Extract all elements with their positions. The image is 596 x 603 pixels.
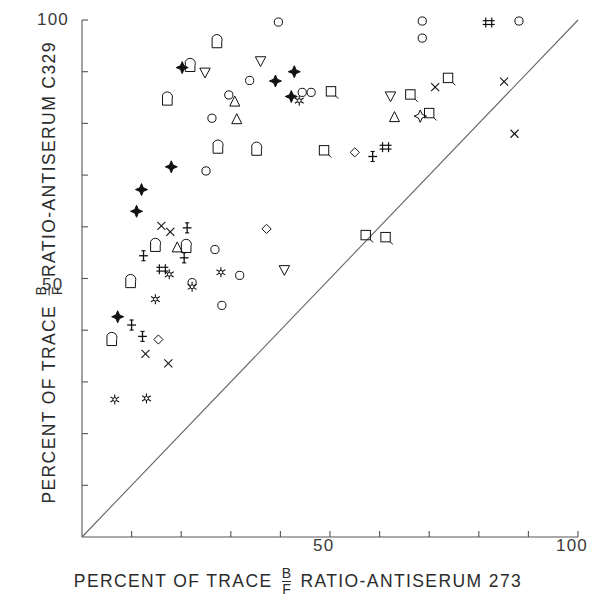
marker-filled-4-star xyxy=(165,161,177,173)
marker-filled-4-star xyxy=(131,205,143,217)
marker-plus-serif xyxy=(180,252,189,263)
marker-triangle-up xyxy=(232,114,242,124)
y-axis-title: PERCENT OF TRACE B F RATIO-ANTISERUM C32… xyxy=(36,12,65,532)
marker-d-shape xyxy=(151,238,161,251)
marker-x-cross xyxy=(511,130,519,138)
marker-open-circle xyxy=(418,17,426,25)
marker-open-circle xyxy=(218,301,226,309)
marker-d-shape xyxy=(212,35,222,48)
marker-open-diamond xyxy=(154,335,163,344)
x-tick-label-50: 50 xyxy=(313,536,334,556)
x-axis-bf-fraction: B F xyxy=(282,567,291,596)
marker-d-shape xyxy=(126,274,136,287)
marker-x-cross xyxy=(141,350,149,358)
marker-open-circle xyxy=(225,91,233,99)
y-fraction-denominator: F xyxy=(51,286,64,295)
marker-open-circle xyxy=(236,271,244,279)
x-axis-title-suffix: RATIO-ANTISERUM 273 xyxy=(300,571,522,591)
marker-filled-4-star xyxy=(269,75,281,87)
marker-triangle-down xyxy=(385,92,395,102)
marker-open-circle xyxy=(274,18,282,26)
marker-filled-4-star xyxy=(285,91,297,103)
marker-open-square xyxy=(319,146,331,158)
marker-triangle-up xyxy=(172,242,182,252)
marker-open-square xyxy=(406,90,418,102)
marker-d-shape xyxy=(181,239,191,252)
marker-open-circle xyxy=(307,88,315,96)
marker-six-point-star xyxy=(142,393,151,403)
marker-triangle-down xyxy=(279,266,289,276)
marker-d-shape xyxy=(107,332,117,345)
marker-open-square xyxy=(326,87,338,99)
marker-six-point-star xyxy=(188,282,197,292)
x-tick-label-100: 100 xyxy=(556,536,588,556)
marker-triangle-up xyxy=(230,96,240,106)
identity-line xyxy=(82,20,578,537)
marker-open-circle xyxy=(211,245,219,253)
x-fraction-denominator: F xyxy=(282,583,291,596)
marker-open-diamond xyxy=(262,224,271,233)
marker-open-circle xyxy=(202,167,210,175)
marker-double-plus xyxy=(483,18,495,28)
marker-open-circle xyxy=(298,88,306,96)
marker-d-shape xyxy=(163,92,173,105)
marker-plus-serif xyxy=(138,331,147,342)
marker-open-circle xyxy=(208,114,216,122)
data-markers xyxy=(107,17,523,405)
marker-open-square xyxy=(443,73,455,85)
marker-x-cross xyxy=(164,359,172,367)
marker-open-square xyxy=(425,108,437,120)
marker-open-diamond xyxy=(350,148,359,157)
scatter-plot-figure: 100 50 50 100 PERCENT OF TRACE B F RATIO… xyxy=(0,0,596,603)
x-fraction-numerator: B xyxy=(282,567,291,580)
marker-d-shape xyxy=(213,140,223,153)
marker-triangle-down xyxy=(200,68,210,78)
marker-open-circle xyxy=(246,76,254,84)
marker-six-point-star xyxy=(216,267,225,277)
marker-triangle-down xyxy=(255,57,265,67)
marker-filled-4-star xyxy=(288,66,300,78)
y-axis-title-prefix: PERCENT OF TRACE xyxy=(39,305,59,504)
marker-plus-serif xyxy=(127,320,136,331)
marker-double-plus xyxy=(380,142,392,152)
marker-six-point-star xyxy=(110,394,119,404)
marker-plus-serif xyxy=(139,250,148,261)
x-axis-title: PERCENT OF TRACE B F RATIO-ANTISERUM 273 xyxy=(0,568,596,597)
marker-filled-4-star xyxy=(136,184,148,196)
y-axis-bf-fraction: B F xyxy=(35,286,64,295)
plot-canvas xyxy=(0,0,596,603)
marker-d-shape xyxy=(185,58,195,71)
marker-plus-serif xyxy=(183,222,192,233)
marker-d-shape xyxy=(252,142,262,155)
marker-open-square xyxy=(381,232,393,244)
marker-x-cross xyxy=(500,78,508,86)
marker-open-circle xyxy=(418,34,426,42)
marker-plus-serif xyxy=(368,151,377,162)
y-axis-title-suffix: RATIO-ANTISERUM C329 xyxy=(39,41,59,277)
marker-x-cross xyxy=(431,83,439,91)
y-fraction-numerator: B xyxy=(35,286,48,295)
marker-triangle-up xyxy=(389,112,399,122)
marker-filled-4-star xyxy=(112,311,124,323)
marker-open-circle xyxy=(515,17,523,25)
marker-x-cross xyxy=(157,222,165,230)
marker-six-point-star xyxy=(151,294,160,304)
marker-x-cross xyxy=(166,228,174,236)
x-axis-title-prefix: PERCENT OF TRACE xyxy=(74,571,273,591)
